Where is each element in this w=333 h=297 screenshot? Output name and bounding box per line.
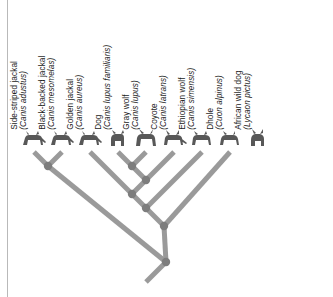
node-n-jackal-pair: [44, 162, 52, 170]
branch-n-coyote-to-coyote: [146, 152, 174, 180]
node-n-coyote: [142, 176, 150, 184]
node-n-golden: [128, 190, 136, 198]
branch-n-root-to-n-dhole: [164, 226, 166, 262]
figure-canvas: Side-striped jackal(Canis adustus)Black-…: [0, 0, 333, 297]
branch-n-dhole-to-dhole: [164, 152, 230, 226]
node-n-dhole: [160, 222, 168, 230]
branch-n-ethiopian-to-ethiopian-wolf: [146, 152, 202, 208]
branch-root-stem: [146, 262, 166, 282]
cladogram-branches: [0, 0, 333, 297]
node-n-root: [162, 258, 170, 266]
node-n-dog-wolf: [128, 162, 136, 170]
node-n-ethiopian: [142, 204, 150, 212]
